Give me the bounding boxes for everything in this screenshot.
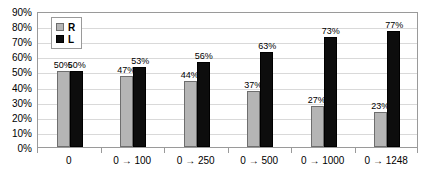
y-tick-label: 70% [0, 37, 32, 48]
bar-l[interactable] [197, 62, 210, 147]
bar-value-label: 77% [381, 20, 407, 30]
axis-tick [228, 148, 229, 153]
x-axis: 00 → 1000 → 2500 → 5000 → 10000 → 1248 [37, 154, 418, 176]
bar-l[interactable] [324, 37, 337, 147]
y-tick-label: 60% [0, 52, 32, 63]
plot-area: 50%50%47%53%44%56%37%63%27%73%23%77% RL [37, 12, 418, 148]
bar-value-label: 73% [318, 26, 344, 36]
bar-value-label: 56% [191, 51, 217, 61]
x-tick-label: 0 → 1248 [365, 154, 408, 168]
legend-swatch-icon [56, 23, 64, 31]
x-tick-label: 0 → 100 [113, 154, 151, 168]
y-tick-label: 50% [0, 67, 32, 78]
legend: RL [51, 17, 82, 49]
bar-group: 47%53% [120, 13, 146, 147]
bar-group: 23%77% [374, 13, 400, 147]
y-tick-label: 40% [0, 82, 32, 93]
bar-l[interactable] [387, 31, 400, 147]
x-tick-label: 0 → 1000 [301, 154, 344, 168]
y-axis: 0%10%20%30%40%50%60%70%80%90% [0, 6, 34, 154]
y-tick-label: 80% [0, 22, 32, 33]
axis-tick [37, 148, 38, 153]
axis-tick [355, 148, 356, 153]
axis-tick [291, 148, 292, 153]
legend-item[interactable]: L [56, 33, 75, 45]
bar-l[interactable] [133, 67, 146, 147]
bar-group: 44%56% [184, 13, 210, 147]
legend-label: L [68, 34, 74, 45]
y-tick-label: 10% [0, 127, 32, 138]
x-tick-label: 0 [66, 154, 72, 168]
y-tick-label: 90% [0, 7, 32, 18]
bar-chart: 0%10%20%30%40%50%60%70%80%90% 50%50%47%5… [0, 0, 437, 180]
bar-value-label: 50% [64, 60, 90, 70]
bar-r[interactable] [57, 71, 70, 147]
bar-group: 37%63% [247, 13, 273, 147]
bar-value-label: 63% [254, 41, 280, 51]
bar-r[interactable] [120, 76, 133, 147]
y-tick-label: 0% [0, 143, 32, 154]
bar-l[interactable] [70, 71, 83, 147]
bar-group: 27%73% [311, 13, 337, 147]
bar-value-label: 53% [127, 56, 153, 66]
axis-tick [417, 148, 418, 153]
x-tick-label: 0 → 250 [177, 154, 215, 168]
axis-tick [164, 148, 165, 153]
bars-layer: 50%50%47%53%44%56%37%63%27%73%23%77% [38, 13, 417, 147]
legend-label: R [68, 22, 75, 33]
bar-r[interactable] [184, 81, 197, 147]
bar-r[interactable] [374, 112, 387, 147]
x-axis-ticks [37, 148, 418, 153]
legend-item[interactable]: R [56, 21, 75, 33]
y-tick-label: 20% [0, 112, 32, 123]
bar-r[interactable] [247, 91, 260, 147]
axis-tick [101, 148, 102, 153]
x-tick-label: 0 → 500 [240, 154, 278, 168]
bar-r[interactable] [311, 106, 324, 147]
legend-swatch-icon [56, 35, 64, 43]
y-tick-label: 30% [0, 97, 32, 108]
bar-l[interactable] [260, 52, 273, 147]
